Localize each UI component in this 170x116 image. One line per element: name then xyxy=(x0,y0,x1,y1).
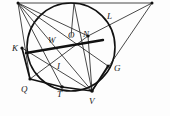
point-label-k: K xyxy=(12,44,18,53)
point-q-dot xyxy=(28,77,31,80)
point-label-o: O xyxy=(68,31,75,40)
point-label-t: T xyxy=(57,90,62,99)
segment-b-n xyxy=(88,3,152,36)
point-v-dot xyxy=(90,89,94,93)
geometry-canvas xyxy=(0,0,170,116)
point-label-n: N xyxy=(83,30,89,39)
construction-lines xyxy=(18,3,152,91)
point-label-i: I xyxy=(57,62,60,71)
apex-left-dot xyxy=(17,2,20,5)
point-k-dot xyxy=(20,46,23,49)
point-label-g: G xyxy=(114,64,121,73)
point-g-dot xyxy=(107,65,110,68)
geometry-figure: W O N L K G I Q T V xyxy=(0,0,170,116)
segment-ctop-v xyxy=(74,3,92,91)
point-label-v: V xyxy=(89,97,95,106)
segment-q-t xyxy=(30,79,62,87)
bold-chord-kn xyxy=(26,40,103,53)
point-label-w: W xyxy=(48,36,56,45)
point-markers xyxy=(17,2,154,93)
point-label-l: L xyxy=(107,12,112,21)
segment-v-g xyxy=(92,66,108,91)
point-label-q: Q xyxy=(21,85,28,94)
apex-right-dot xyxy=(151,2,154,5)
